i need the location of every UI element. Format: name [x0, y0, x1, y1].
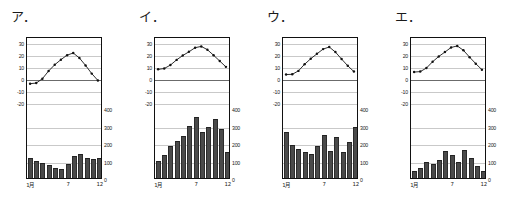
precip-axis-tick-label: 0 — [488, 177, 491, 183]
temperature-point — [456, 45, 458, 47]
temperature-point — [481, 68, 483, 70]
temperature-point — [225, 66, 227, 68]
temperature-point — [47, 70, 49, 72]
temperature-point — [291, 73, 293, 75]
temp-axis-tick-label: 10 — [275, 65, 280, 71]
plot-area — [411, 38, 485, 178]
precip-axis-tick-label: 300 — [232, 125, 240, 131]
temperature-point — [84, 64, 86, 66]
precip-axis-tick-label: 300 — [488, 125, 496, 131]
temperature-point — [310, 57, 312, 59]
precip-axis-tick-label: 200 — [104, 142, 112, 148]
temperature-point — [41, 77, 43, 79]
temperature-point — [97, 79, 99, 81]
temperature-line — [414, 46, 482, 72]
temperature-point — [200, 45, 202, 47]
temperature-point — [419, 70, 421, 72]
temperature-point — [322, 48, 324, 50]
temperature-point — [438, 55, 440, 57]
month-axis-tick-label: 1月 — [410, 181, 418, 189]
temp-axis-tick-label: -20 — [273, 101, 280, 107]
month-axis-tick-label: 1月 — [282, 181, 290, 189]
plot-area — [27, 38, 101, 178]
temp-axis-tick-label: 20 — [147, 53, 152, 59]
climate-panel-4: エ．3020100-10-2040030020010001月712 — [384, 0, 512, 212]
panel-label: ウ． — [267, 6, 293, 25]
precip-axis-tick-label: 300 — [360, 125, 368, 131]
temperature-point — [316, 53, 318, 55]
precip-axis-tick-label: 400 — [488, 107, 496, 113]
month-axis-tick-label: 12 — [97, 181, 103, 187]
temperature-point — [194, 46, 196, 48]
temperature-point — [169, 64, 171, 66]
temperature-point — [328, 46, 330, 48]
precip-axis-tick-label: 0 — [360, 177, 363, 183]
precip-axis-tick-label: 100 — [360, 160, 368, 166]
temp-axis-tick-label: 10 — [147, 65, 152, 71]
temperature-point — [78, 57, 80, 59]
temperature-point — [334, 51, 336, 53]
month-axis-tick-label: 7 — [195, 181, 198, 187]
temp-axis-tick-label: 20 — [403, 53, 408, 59]
temp-axis-tick-label: -10 — [401, 89, 408, 95]
temperature-point — [163, 67, 165, 69]
temp-axis-tick-label: -10 — [273, 89, 280, 95]
temp-axis-tick-label: 30 — [403, 41, 408, 47]
temperature-series — [411, 38, 485, 178]
temperature-point — [60, 58, 62, 60]
temperature-point — [285, 73, 287, 75]
precip-axis-tick-label: 0 — [232, 177, 235, 183]
climate-panel-3: ウ．3020100-10-2040030020010001月712 — [256, 0, 384, 212]
temperature-point — [468, 56, 470, 58]
temperature-point — [188, 51, 190, 53]
temp-axis-tick-label: 30 — [19, 41, 24, 47]
temperature-point — [182, 54, 184, 56]
temperature-point — [444, 51, 446, 53]
temp-axis-tick-label: 0 — [21, 77, 24, 83]
temperature-point — [35, 82, 37, 84]
panel-label: イ． — [139, 6, 165, 25]
temperature-point — [66, 54, 68, 56]
temperature-point — [91, 72, 93, 74]
temperature-point — [72, 52, 74, 54]
precip-axis-tick-label: 200 — [488, 142, 496, 148]
month-axis-tick-label: 12 — [481, 181, 487, 187]
temperature-point — [212, 54, 214, 56]
temp-axis-tick-label: 20 — [275, 53, 280, 59]
temperature-line — [30, 53, 98, 84]
temperature-point — [157, 68, 159, 70]
temperature-point — [219, 60, 221, 62]
temperature-point — [347, 65, 349, 67]
temp-axis-tick-label: 10 — [403, 65, 408, 71]
temperature-point — [450, 46, 452, 48]
temperature-point — [413, 71, 415, 73]
climate-panel-1: ア．3020100-10-2040030020010001月712 — [0, 0, 128, 212]
temperature-point — [462, 49, 464, 51]
temp-axis-tick-label: -20 — [401, 101, 408, 107]
temperature-point — [297, 70, 299, 72]
temp-axis-tick-label: 10 — [19, 65, 24, 71]
month-axis-tick-label: 7 — [323, 181, 326, 187]
month-axis-tick-label: 7 — [451, 181, 454, 187]
panel-label: エ． — [395, 6, 421, 25]
precip-axis-tick-label: 0 — [104, 177, 107, 183]
temperature-point — [431, 61, 433, 63]
temperature-point — [353, 70, 355, 72]
temp-axis-tick-label: 30 — [147, 41, 152, 47]
temp-axis-tick-label: 0 — [277, 77, 280, 83]
temperature-series — [283, 38, 357, 178]
temperature-series — [155, 38, 229, 178]
temperature-point — [29, 82, 31, 84]
climate-panel-2: イ．3020100-10-2040030020010001月712 — [128, 0, 256, 212]
temperature-point — [303, 63, 305, 65]
temperature-point — [206, 48, 208, 50]
month-axis-tick-label: 1月 — [26, 181, 34, 189]
temp-axis-tick-label: 20 — [19, 53, 24, 59]
temp-axis-tick-label: -20 — [145, 101, 152, 107]
chart-frame: 3020100-10-2040030020010001月712 — [282, 37, 358, 179]
temp-axis-tick-label: 0 — [149, 77, 152, 83]
precip-axis-tick-label: 200 — [232, 142, 240, 148]
precip-axis-tick-label: 300 — [104, 125, 112, 131]
month-axis-tick-label: 12 — [225, 181, 231, 187]
month-axis-tick-label: 7 — [67, 181, 70, 187]
